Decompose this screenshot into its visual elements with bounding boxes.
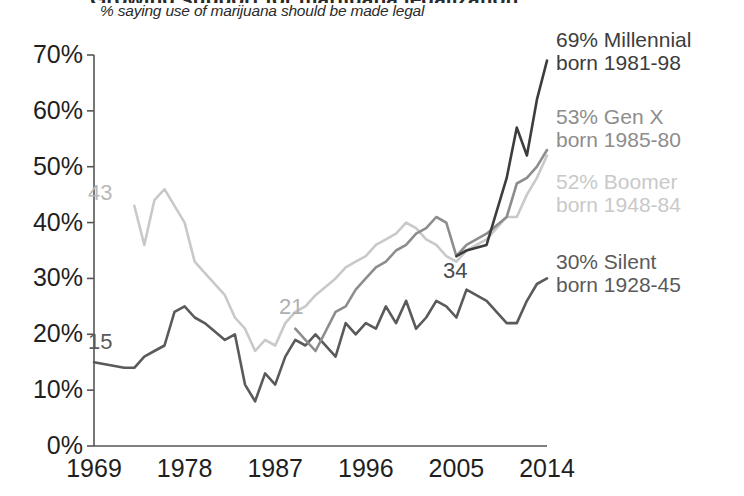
- legend-item-millennial[interactable]: 69% Millennialborn 1981-98: [556, 28, 691, 74]
- legend-label-born: born 1948-84: [556, 193, 681, 216]
- legend-label-value: 69% Millennial: [556, 28, 691, 51]
- legend-item-silent[interactable]: 30% Silentborn 1928-45: [556, 250, 681, 296]
- data-label-millennial-start: 34: [443, 260, 467, 282]
- series-line-millennial: [456, 61, 547, 257]
- legend-label-born: born 1928-45: [556, 273, 681, 296]
- legend-label-born: born 1985-80: [556, 128, 681, 151]
- chart-svg: [0, 0, 744, 496]
- data-label-boomer-start: 43: [88, 182, 112, 204]
- legend-item-genx[interactable]: 53% Gen Xborn 1985-80: [556, 105, 681, 151]
- chart-root: Growing support for marijuana legalizati…: [0, 0, 744, 496]
- series-line-boomer: [134, 156, 547, 352]
- y-axis-tick-label: 50%: [33, 154, 83, 179]
- series-line-gen-x: [295, 150, 547, 351]
- y-axis-tick-label: 30%: [33, 265, 83, 290]
- y-axis-tick-label: 20%: [33, 321, 83, 346]
- data-label-genx-start: 21: [279, 296, 303, 318]
- legend-item-boomer[interactable]: 52% Boomerborn 1948-84: [556, 170, 681, 216]
- data-label-silent-start: 15: [88, 331, 112, 353]
- y-axis-tick-label: 40%: [33, 210, 83, 235]
- y-axis-tick-label: 10%: [33, 377, 83, 402]
- x-axis-tick-label: 2014: [492, 456, 602, 481]
- plot-area: [0, 0, 744, 496]
- legend-label-value: 52% Boomer: [556, 170, 681, 193]
- y-axis-tick-label: 70%: [33, 42, 83, 67]
- legend-label-born: born 1981-98: [556, 51, 691, 74]
- legend-label-value: 53% Gen X: [556, 105, 681, 128]
- legend-label-value: 30% Silent: [556, 250, 681, 273]
- y-axis-tick-label: 60%: [33, 98, 83, 123]
